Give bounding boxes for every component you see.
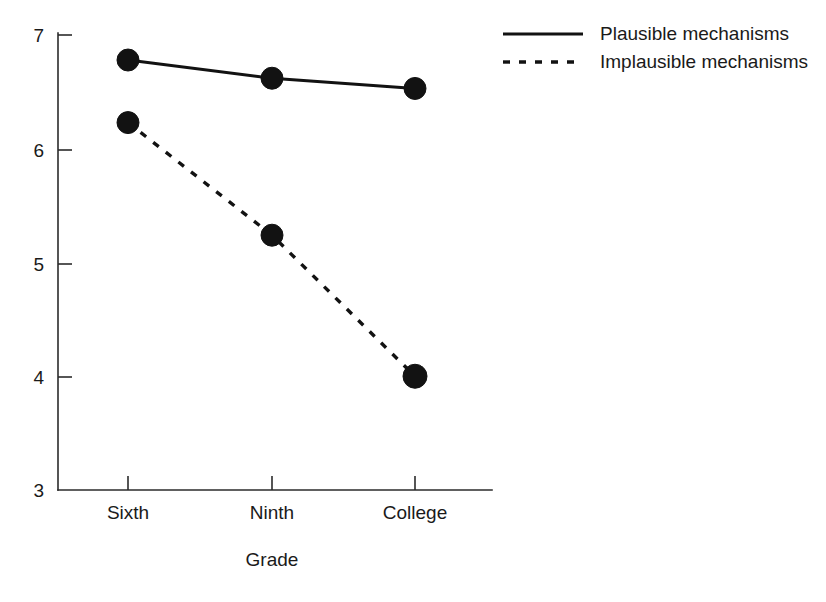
x-tick-label-college: College <box>383 502 447 523</box>
data-point-implausible-sixth <box>117 112 139 134</box>
x-tick-label-ninth: Ninth <box>250 502 294 523</box>
data-point-plausible-college <box>404 77 426 99</box>
data-point-implausible-ninth <box>261 224 283 246</box>
y-tick-label-7: 7 <box>33 25 44 46</box>
x-tick-label-sixth: Sixth <box>107 502 149 523</box>
y-tick-label-5: 5 <box>33 254 44 275</box>
y-tick-label-4: 4 <box>33 367 44 388</box>
line-chart: 7 6 5 4 3 Sixth Ninth College Grade <box>0 0 826 602</box>
chart-figure: 7 6 5 4 3 Sixth Ninth College Grade <box>0 0 826 602</box>
y-tick-label-6: 6 <box>33 140 44 161</box>
data-point-plausible-ninth <box>261 67 283 89</box>
data-point-plausible-sixth <box>117 49 139 71</box>
y-tick-label-3: 3 <box>33 480 44 501</box>
legend-label-plausible: Plausible mechanisms <box>600 23 789 44</box>
x-axis-title: Grade <box>246 549 299 570</box>
legend-label-implausible: Implausible mechanisms <box>600 51 808 72</box>
data-point-implausible-college <box>403 364 427 388</box>
